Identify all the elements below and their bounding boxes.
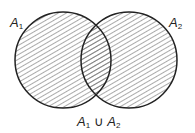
union-caption: A1 ∪ A2 (77, 115, 120, 130)
set-a1-label: A1 (10, 16, 23, 31)
set-a2-label: A2 (169, 16, 182, 31)
